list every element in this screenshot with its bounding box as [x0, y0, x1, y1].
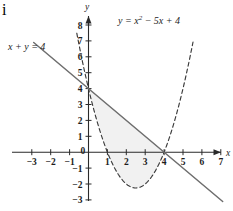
- parabola-equation-prefix: y = x: [118, 15, 139, 26]
- x-tick-label: −3: [27, 157, 37, 167]
- y-axis: y: [84, 2, 92, 201]
- y-tick-label: 1: [78, 132, 83, 142]
- x-tick-label: 6: [200, 157, 205, 167]
- y-axis-arrow-icon: [86, 16, 92, 24]
- parabola-equation-suffix: − 5x + 4: [142, 15, 180, 26]
- x-axis-label: x: [225, 148, 231, 158]
- y-tick-label: −1: [72, 164, 82, 174]
- parabola-equation-label: y = x2 − 5x + 4: [118, 14, 180, 26]
- x-tick-label: 5: [181, 157, 186, 167]
- y-tick-label: 5: [78, 68, 83, 78]
- y-tick-label: 2: [78, 116, 83, 126]
- y-tick-label: −2: [72, 180, 82, 190]
- graph-figure: x y −3−2−101234567 −3−2−112345678 i x + …: [0, 0, 233, 211]
- x-tick-label: 1: [105, 157, 110, 167]
- x-tick-label: 2: [124, 157, 129, 167]
- y-tick-label: 3: [78, 100, 83, 110]
- y-axis-label: y: [84, 2, 90, 12]
- line-equation-label: x + y = 4: [8, 41, 45, 52]
- x-tick-label: 7: [218, 157, 223, 167]
- x-tick-label: 0: [81, 146, 86, 156]
- y-tick-label: 4: [78, 84, 83, 94]
- x-tick-label: 3: [143, 157, 148, 167]
- shaded-region-between-curves: [89, 89, 165, 188]
- x-axis-arrow-icon: [214, 149, 222, 155]
- x-tick-label: 4: [162, 157, 167, 167]
- corner-mark: i: [2, 1, 6, 19]
- y-tick-label: 8: [78, 21, 83, 31]
- y-tick-label: −3: [72, 195, 82, 205]
- x-tick-label: −2: [46, 157, 56, 167]
- coordinate-plane-svg: x y −3−2−101234567 −3−2−112345678: [0, 0, 233, 211]
